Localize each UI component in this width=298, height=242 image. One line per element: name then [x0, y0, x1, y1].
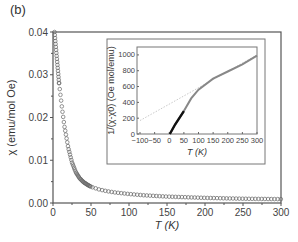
y-tick-label: 0.03 — [29, 69, 49, 80]
data-point — [65, 137, 69, 141]
data-point — [61, 110, 65, 114]
y-tick-label: 0.02 — [29, 112, 49, 123]
inset-x-tick-label: 250 — [236, 136, 249, 145]
x-tick-label: 50 — [85, 207, 97, 218]
x-tick-label: 250 — [235, 207, 252, 218]
inset-y-tick-label: 1000 — [118, 50, 135, 59]
inset-x-tick-label: 150 — [207, 136, 220, 145]
inset-y-tick-label: 200 — [122, 114, 135, 123]
x-axis-label: T (K) — [155, 219, 180, 231]
data-point — [58, 87, 62, 91]
data-point — [62, 120, 66, 124]
data-point — [63, 125, 67, 129]
inset-x-tick-label: 0 — [167, 136, 171, 145]
inset-x-tick-label: −50 — [148, 136, 161, 145]
inset-y-tick-label: 800 — [122, 66, 135, 75]
inset-x-tick-label: 300 — [251, 136, 264, 145]
x-tick-label: 100 — [121, 207, 138, 218]
inset-x-tick-label: 200 — [221, 136, 234, 145]
inset-y-axis-label: 1/(χ-χ0) (Oe mol/emu) — [106, 46, 116, 134]
inset-y-tick-label: 0 — [131, 130, 135, 139]
x-tick-label: 150 — [159, 207, 176, 218]
inset-x-tick-label: 50 — [180, 136, 188, 145]
inset-x-tick-label: 100 — [192, 136, 205, 145]
data-point — [59, 99, 63, 103]
inset-y-tick-label: 400 — [122, 98, 135, 107]
y-tick-label: 0.01 — [29, 155, 49, 166]
x-tick-label: 300 — [273, 207, 290, 218]
x-tick-label: 0 — [50, 207, 56, 218]
chart-main: 0501001502002503000.000.010.020.030.04T … — [0, 0, 298, 242]
inset-x-axis-label: T (K) — [187, 147, 207, 157]
data-point — [61, 115, 65, 119]
y-tick-label: 0.00 — [29, 198, 49, 209]
inset-y-tick-label: 600 — [122, 82, 135, 91]
y-axis-label: χ (emu/mol Oe) — [5, 79, 17, 155]
data-point — [63, 129, 67, 133]
y-tick-label: 0.04 — [29, 27, 49, 38]
data-point — [59, 93, 63, 97]
data-point — [65, 140, 69, 144]
x-tick-label: 200 — [197, 207, 214, 218]
data-point — [60, 105, 64, 109]
data-point — [64, 133, 68, 137]
